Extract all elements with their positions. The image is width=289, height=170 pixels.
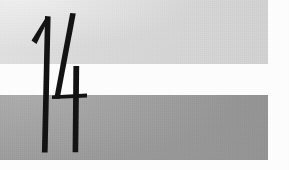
digit-one-stem — [42, 16, 51, 152]
digit-four-stem — [73, 66, 80, 152]
page-canvas — [0, 0, 289, 170]
page-number-14 — [0, 0, 289, 170]
numeral-strokes — [32, 13, 88, 152]
digit-four-diagonal — [54, 13, 76, 99]
